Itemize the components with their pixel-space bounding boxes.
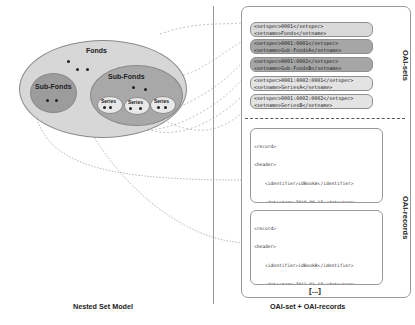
- record-line: <datestamp>2011-01-18</datestamp>: [254, 282, 379, 285]
- set-name: <setname>Sub-FondsB</setname>: [254, 65, 369, 72]
- set-box-fonds: <setspec>0001</setspec> <setname>Fonds</…: [250, 22, 373, 37]
- set-name: <setname>SeriesB</setname>: [254, 102, 369, 109]
- item-dot: [46, 99, 49, 102]
- record-line: <identifier>idBookA</identifier>: [254, 181, 379, 187]
- oai-records-label: OAI-records: [401, 196, 410, 239]
- record-line: <datestamp>2010-09-18</datestamp>: [254, 200, 379, 203]
- sub-fonds-left-label: Sub-Fonds: [35, 83, 72, 90]
- series-label-1: Series: [101, 98, 116, 104]
- item-dot: [67, 60, 70, 63]
- item-dot: [157, 106, 160, 109]
- record-line: <record>: [254, 226, 379, 232]
- set-box-sub-fonds-b: <setspec>0001:0002</setspec> <setname>Su…: [250, 57, 373, 72]
- nested-set-model-caption: Nested Set Model: [73, 302, 133, 311]
- item-dot: [139, 107, 142, 110]
- set-name: <setname>Fonds</setname>: [254, 30, 369, 37]
- series-label-2: Series: [128, 99, 143, 105]
- set-name: <setname>SeriesA</setname>: [254, 84, 369, 91]
- oai-caption: OAI-set + OAI-records: [270, 302, 345, 311]
- item-dot: [109, 106, 112, 109]
- record-line: <header>: [254, 162, 379, 168]
- item-dot: [55, 99, 58, 102]
- item-dot: [129, 107, 132, 110]
- more-records-ellipsis: [...]: [309, 286, 321, 295]
- sub-fonds-right-label: Sub-Fonds: [108, 73, 145, 80]
- item-dot: [76, 68, 79, 71]
- divider: [213, 6, 214, 304]
- set-box-series-a: <setspec>0001:0002:0001</setspec> <setna…: [250, 76, 373, 91]
- set-spec: <setspec>0001</setspec>: [254, 23, 369, 30]
- item-dot: [164, 106, 167, 109]
- record-line: <header>: [254, 244, 379, 250]
- set-name: <setname>Sub-FondsA</setname>: [254, 47, 369, 54]
- series-label-3: Series: [154, 98, 169, 104]
- set-box-sub-fonds-a: <setspec>0001:0001</setspec> <setname>Su…: [250, 39, 373, 54]
- oai-sets-label: OAI-sets: [401, 50, 410, 81]
- item-dot: [86, 68, 89, 71]
- fonds-label: Fonds: [86, 47, 107, 54]
- record-box-b: <record> <header> <identifier>idBookB</i…: [250, 210, 383, 285]
- set-spec: <setspec>0001:0002:0002</setspec>: [254, 95, 369, 102]
- item-dot: [132, 86, 135, 89]
- sub-fonds-left-ellipse: [30, 73, 77, 113]
- set-spec: <setspec>0001:0002</setspec>: [254, 58, 369, 65]
- set-spec: <setspec>0001:0001</setspec>: [254, 40, 369, 47]
- record-line: <record>: [254, 144, 379, 150]
- set-spec: <setspec>0001:0002:0001</setspec>: [254, 77, 369, 84]
- sets-records-separator: [245, 118, 405, 119]
- set-box-series-b: <setspec>0001:0002:0002</setspec> <setna…: [250, 94, 373, 109]
- item-dot: [103, 106, 106, 109]
- record-box-a: <record> <header> <identifier>idBookA</i…: [250, 128, 383, 203]
- item-dot: [144, 88, 147, 91]
- record-line: <identifier>idBookB</identifier>: [254, 263, 379, 269]
